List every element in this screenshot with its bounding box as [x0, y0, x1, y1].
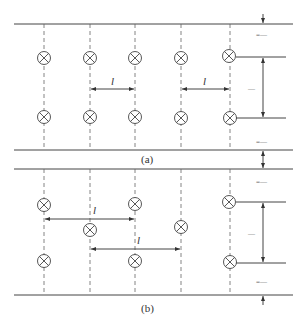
spacing-dimension-1: l — [91, 75, 134, 89]
spacing-label: l — [93, 204, 96, 216]
caption-a: (a) — [141, 153, 154, 166]
lamp-icon — [129, 111, 142, 124]
lamp-icon — [175, 52, 188, 65]
lamp-icon — [84, 111, 97, 124]
clearance-label-bottom: =— — [256, 278, 268, 286]
clearance-label-top: =— — [256, 178, 268, 186]
panel-b: l l =— — =— (b) — [14, 160, 293, 315]
spacing-dimension-1: l — [45, 204, 134, 219]
lamp-icon — [84, 52, 97, 65]
row-spacing-label: — — [247, 230, 256, 238]
lamp-icon — [38, 111, 51, 124]
clearance-label-top: =— — [256, 31, 268, 39]
lamp-icon — [175, 112, 188, 125]
lamp-row-2 — [38, 111, 237, 125]
spacing-label: l — [111, 75, 114, 87]
lamp-icon — [175, 221, 188, 234]
lamp-row-middle — [84, 221, 188, 237]
lamp-icon — [129, 52, 142, 65]
lamp-icon — [38, 199, 51, 212]
spacing-dimension-2: l — [91, 234, 180, 249]
lamp-row-1 — [38, 50, 236, 65]
lamp-icon — [224, 112, 237, 125]
lamp-row-2 — [38, 255, 237, 269]
spacing-label: l — [137, 234, 140, 246]
lamp-icon — [129, 255, 142, 268]
spacing-label: l — [203, 75, 206, 87]
spacing-dimension-2: l — [182, 75, 229, 89]
clearance-label-bottom: =— — [256, 138, 268, 146]
lamp-row-1 — [38, 196, 236, 212]
lamp-icon — [224, 256, 237, 269]
row-spacing-label: — — [247, 85, 256, 93]
lamp-icon — [38, 255, 51, 268]
column-dashed-lines — [44, 169, 230, 295]
lamp-icon — [84, 224, 97, 237]
lamp-icon — [223, 50, 236, 63]
lamp-icon — [38, 52, 51, 65]
panel-a: l l =— — =— (a) — [14, 14, 293, 166]
caption-b: (b) — [141, 302, 154, 315]
lamp-icon — [129, 198, 142, 211]
lighting-layout-diagram: l l =— — =— (a) — [0, 0, 302, 325]
column-dashed-lines — [44, 24, 230, 150]
lamp-icon — [223, 196, 236, 209]
